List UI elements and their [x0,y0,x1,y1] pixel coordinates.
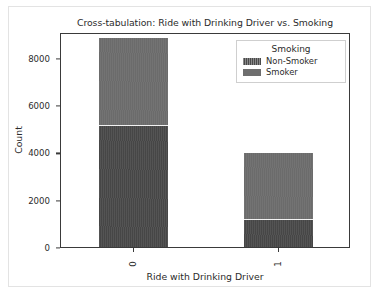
y-tick-label: 8000 [4,54,50,64]
bar-segment[interactable] [244,220,314,247]
x-tick-label: 1 [273,261,283,266]
legend-entry[interactable]: Non-Smoker [243,56,339,66]
legend-entry[interactable]: Smoker [243,67,339,77]
y-tick-label: 2000 [4,196,50,206]
figure-canvas: Cross-tabulation: Ride with Drinking Dri… [0,0,379,293]
legend-entry-label: Smoker [266,67,298,77]
legend-swatch-icon [243,69,261,76]
legend-entry-label: Non-Smoker [266,56,317,66]
legend-swatch-icon [243,58,261,65]
bar-stack[interactable] [99,32,169,247]
x-axis-label: Ride with Drinking Driver [60,271,350,282]
x-tick-mark [133,248,134,252]
y-tick-label: 6000 [4,101,50,111]
x-tick-mark [278,248,279,252]
legend-title: Smoking [243,44,339,54]
legend: Smoking Non-SmokerSmoker [236,40,346,83]
bar-segment[interactable] [99,126,169,247]
legend-entries: Non-SmokerSmoker [243,56,339,77]
bar-segment[interactable] [99,38,169,125]
x-tick-label: 0 [128,261,138,266]
chart-title: Cross-tabulation: Ride with Drinking Dri… [60,17,350,28]
y-tick-label: 0 [4,243,50,253]
bar-segment[interactable] [244,153,314,220]
y-tick-label: 4000 [4,148,50,158]
